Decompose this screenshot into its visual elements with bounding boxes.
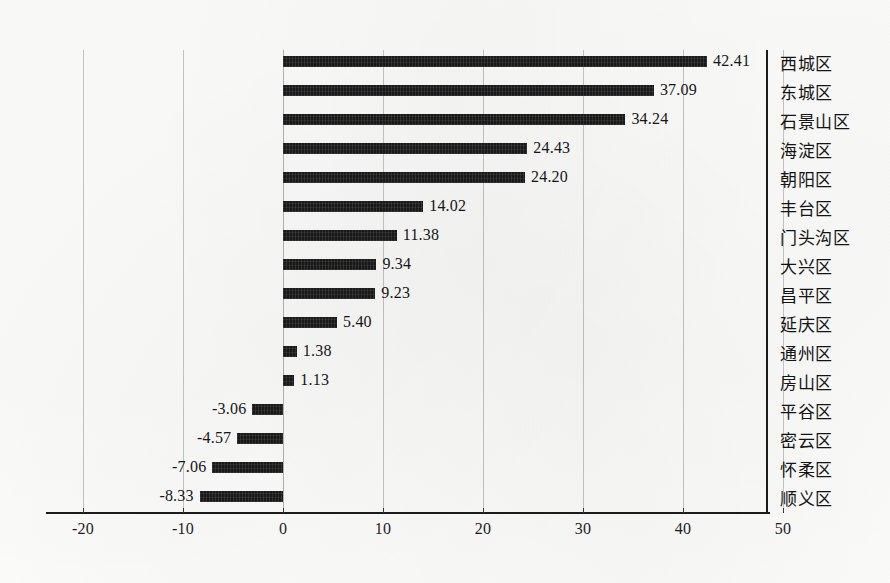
bar-value-label: 14.02: [429, 197, 466, 215]
x-tick--20: [83, 508, 84, 513]
category-label: 丰台区: [780, 195, 833, 220]
category-label: 昌平区: [780, 282, 833, 307]
category-label: 房山区: [780, 369, 833, 394]
bar: [283, 172, 525, 183]
category-label: 门头沟区: [780, 224, 850, 249]
category-label: 大兴区: [780, 253, 833, 278]
x-tick-40: [683, 508, 684, 513]
bar-value-label: 9.34: [382, 255, 411, 273]
bar-value-label: -3.06: [212, 400, 246, 418]
x-axis-line: [46, 512, 770, 514]
x-tick-label: -20: [53, 520, 113, 538]
category-axis-line: [766, 50, 768, 514]
category-label: 朝阳区: [780, 166, 833, 191]
bar: [283, 230, 397, 241]
category-label: 顺义区: [780, 485, 833, 510]
bar-value-label: -7.06: [172, 458, 206, 476]
bar-value-label: -8.33: [159, 487, 193, 505]
gridline-40: [683, 50, 684, 513]
bar: [283, 56, 707, 67]
x-tick-label: 40: [653, 520, 713, 538]
bar-value-label: 1.38: [303, 342, 332, 360]
x-tick-label: 0: [253, 520, 313, 538]
x-tick-0: [283, 508, 284, 513]
x-tick--10: [183, 508, 184, 513]
x-tick-label: 20: [453, 520, 513, 538]
bar-value-label: 34.24: [631, 110, 668, 128]
bar: [283, 201, 423, 212]
bar: [283, 259, 376, 270]
category-label: 密云区: [780, 427, 833, 452]
bar: [212, 462, 283, 473]
gridline--20: [83, 50, 84, 513]
bar-value-label: 5.40: [343, 313, 372, 331]
chart-canvas: 42.4137.0934.2424.4324.2014.0211.389.349…: [0, 0, 890, 583]
bar-value-label: -4.57: [197, 429, 231, 447]
bar: [283, 346, 297, 357]
x-tick-label: 30: [553, 520, 613, 538]
bar: [283, 143, 527, 154]
category-label: 怀柔区: [780, 456, 833, 481]
x-tick-10: [383, 508, 384, 513]
bar-value-label: 37.09: [660, 81, 697, 99]
x-tick-label: -10: [153, 520, 213, 538]
bar-value-label: 24.20: [531, 168, 568, 186]
bar-value-label: 42.41: [713, 52, 750, 70]
bar: [252, 404, 283, 415]
category-label: 海淀区: [780, 137, 833, 162]
bar: [200, 491, 283, 502]
bar-chart-plot-area: 42.4137.0934.2424.4324.2014.0211.389.349…: [0, 0, 890, 583]
bar: [283, 288, 375, 299]
x-tick-label: 10: [353, 520, 413, 538]
bar-value-label: 9.23: [381, 284, 410, 302]
bar: [283, 114, 625, 125]
bar-value-label: 11.38: [403, 226, 439, 244]
bar-value-label: 24.43: [533, 139, 570, 157]
gridline--10: [183, 50, 184, 513]
category-label: 西城区: [780, 50, 833, 75]
category-label: 延庆区: [780, 311, 833, 336]
x-tick-label: 50: [753, 520, 813, 538]
category-label: 通州区: [780, 340, 833, 365]
x-tick-20: [483, 508, 484, 513]
bar: [283, 317, 337, 328]
bar: [237, 433, 283, 444]
category-label: 东城区: [780, 79, 833, 104]
category-label: 平谷区: [780, 398, 833, 423]
x-tick-30: [583, 508, 584, 513]
category-label: 石景山区: [780, 108, 850, 133]
bar: [283, 375, 294, 386]
bar-value-label: 1.13: [300, 371, 329, 389]
bar: [283, 85, 654, 96]
